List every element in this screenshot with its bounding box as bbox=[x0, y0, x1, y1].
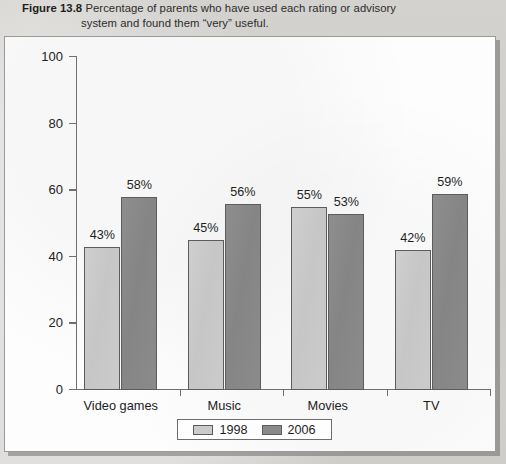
bar-2006-tv bbox=[432, 194, 468, 390]
chart-legend: 1998 2006 bbox=[177, 419, 332, 440]
x-tick-3 bbox=[490, 389, 491, 396]
category-label-movies: Movies bbox=[307, 398, 348, 413]
bar-2006-video-games bbox=[121, 197, 157, 390]
figure-number: Figure 13.8 bbox=[22, 2, 82, 14]
bar-chart: 020406080100 43%58%45%56%55%53%42%59% Vi… bbox=[5, 37, 496, 452]
legend-label-2006: 2006 bbox=[288, 423, 316, 437]
category-label-tv: TV bbox=[423, 398, 439, 413]
bar-value-1998-music: 45% bbox=[193, 221, 218, 235]
x-tick-0 bbox=[180, 389, 181, 396]
caption-line-2: system and found them “very” useful. bbox=[81, 16, 492, 31]
legend-item-1998: 1998 bbox=[193, 423, 247, 437]
x-tick-2 bbox=[387, 389, 388, 396]
category-label-music: Music bbox=[208, 398, 241, 413]
bar-value-1998-tv: 42% bbox=[400, 231, 425, 245]
bar-value-2006-video-games: 58% bbox=[127, 178, 152, 192]
bar-value-1998-movies: 55% bbox=[297, 188, 322, 202]
caption-line-1: Percentage of parents who have used each… bbox=[85, 2, 396, 14]
legend-swatch-2006 bbox=[262, 425, 282, 435]
x-tick-1 bbox=[283, 389, 284, 396]
bar-1998-music bbox=[188, 240, 224, 390]
bar-1998-video-games bbox=[84, 247, 120, 390]
bar-value-2006-music: 56% bbox=[230, 185, 255, 199]
bars-layer bbox=[5, 37, 496, 390]
bar-value-1998-video-games: 43% bbox=[90, 228, 115, 242]
bar-value-2006-tv: 59% bbox=[437, 175, 462, 189]
bar-1998-tv bbox=[395, 250, 431, 390]
legend-label-1998: 1998 bbox=[219, 423, 247, 437]
legend-swatch-1998 bbox=[193, 425, 213, 435]
bar-value-2006-movies: 53% bbox=[334, 195, 359, 209]
bar-1998-movies bbox=[291, 207, 327, 390]
bar-2006-music bbox=[225, 204, 261, 390]
bar-2006-movies bbox=[328, 214, 364, 390]
legend-item-2006: 2006 bbox=[262, 423, 316, 437]
category-label-video-games: Video games bbox=[84, 398, 158, 413]
figure-panel: 020406080100 43%58%45%56%55%53%42%59% Vi… bbox=[4, 36, 496, 452]
figure-caption: Figure 13.8 Percentage of parents who ha… bbox=[22, 1, 492, 31]
